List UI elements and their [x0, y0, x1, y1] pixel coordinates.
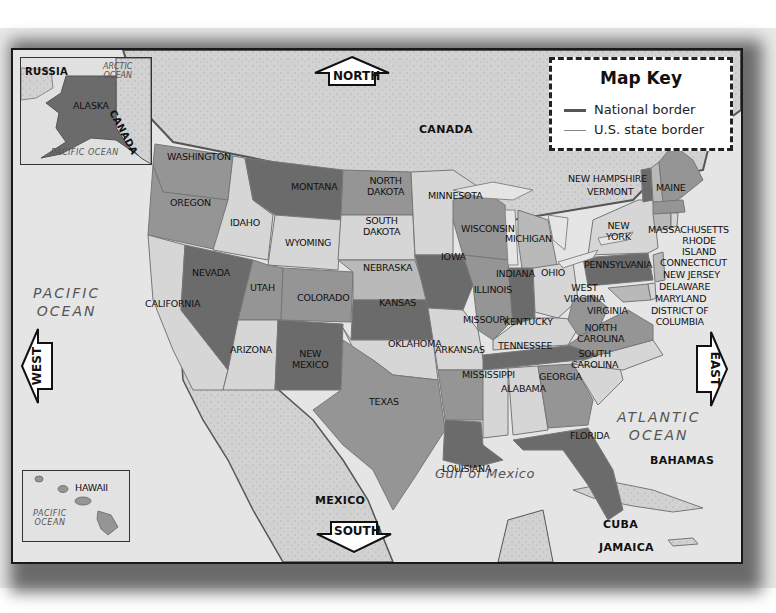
california-label: CALIFORNIA — [145, 298, 200, 309]
south-carolina-label: SOUTH CAROLINA — [571, 348, 618, 370]
maryland-label: MARYLAND — [655, 293, 706, 304]
north-label: NORTH — [333, 69, 380, 83]
missouri-label: MISSOURI — [463, 314, 508, 325]
wyoming-label: WYOMING — [285, 237, 331, 248]
massachusetts-state — [653, 200, 685, 214]
florida-label: FLORIDA — [570, 430, 610, 441]
north-dakota-label: NORTH DAKOTA — [367, 175, 404, 197]
iowa-label: IOWA — [441, 251, 466, 262]
west-arrow: WEST — [20, 327, 54, 405]
nevada-label: NEVADA — [192, 267, 230, 278]
montana-label: MONTANA — [291, 181, 338, 192]
atlantic-ocean-label: ATLANTIC OCEAN — [617, 408, 700, 444]
russia-label: RUSSIA — [25, 66, 68, 77]
washington-label: WASHINGTON — [167, 151, 231, 162]
national-border-swatch — [564, 109, 586, 112]
west-virginia-label: WEST VIRGINIA — [564, 282, 605, 304]
maine-label: MAINE — [656, 182, 686, 193]
kentucky-label: KENTUCKY — [504, 316, 553, 327]
arctic-ocean-label: ARCTIC OCEAN — [103, 62, 132, 80]
south-label: SOUTH — [334, 524, 381, 538]
oregon-label: OREGON — [170, 197, 211, 208]
tennessee-label: TENNESSEE — [498, 340, 552, 351]
delaware-label: DELAWARE — [659, 281, 710, 292]
connecticut-label: CONNECTICUT — [660, 257, 727, 268]
map-key: Map Key National border U.S. state borde… — [549, 57, 733, 151]
michigan-label: MICHIGAN — [505, 233, 552, 244]
indiana-label: INDIANA — [496, 268, 535, 279]
north-carolina-label: NORTH CAROLINA — [577, 322, 624, 344]
vermont-label: VERMONT — [587, 186, 633, 197]
west-label: WEST — [30, 347, 44, 385]
minnesota-label: MINNESOTA — [428, 190, 483, 201]
north-arrow: NORTH — [313, 55, 391, 87]
key-national-border: National border — [564, 102, 695, 117]
illinois-label: ILLINOIS — [474, 284, 512, 295]
state-border-label: U.S. state border — [594, 122, 704, 137]
east-label: EAST — [708, 352, 722, 386]
rhode-island-label: RHODE ISLAND — [682, 235, 716, 257]
new-mexico-label: NEW MEXICO — [292, 348, 328, 370]
national-border-label: National border — [594, 102, 695, 117]
kauai-island — [35, 476, 43, 482]
alabama-label: ALABAMA — [501, 383, 546, 394]
cuba-label: CUBA — [603, 519, 638, 530]
pacific-ocean-label: PACIFIC OCEAN — [33, 284, 100, 320]
mississippi-label: MISSISSIPPI — [462, 369, 515, 380]
south-dakota-label: SOUTH DAKOTA — [363, 215, 400, 237]
new-jersey-label: NEW JERSEY — [663, 269, 720, 280]
map-key-title: Map Key — [552, 68, 730, 88]
oklahoma-label: OKLAHOMA — [388, 338, 441, 349]
canada-label: CANADA — [419, 124, 473, 135]
dc-label: DISTRICT OF COLUMBIA — [651, 305, 709, 327]
alaska-label: ALASKA — [73, 100, 109, 111]
texas-label: TEXAS — [369, 396, 399, 407]
mexico-label: MEXICO — [315, 495, 365, 506]
big-island — [97, 511, 118, 535]
arizona-label: ARIZONA — [230, 344, 272, 355]
pennsylvania-label: PENNSYLVANIA — [584, 259, 652, 270]
oahu-island — [58, 486, 68, 493]
nebraska-label: NEBRASKA — [363, 262, 412, 273]
bahamas-label: BAHAMAS — [650, 455, 714, 466]
south-arrow: SOUTH — [315, 520, 393, 554]
massachusetts-label: MASSACHUSETTS — [648, 224, 729, 235]
new-york-label: NEW YORK — [606, 220, 631, 242]
colorado-label: COLORADO — [297, 292, 349, 303]
key-state-border: U.S. state border — [564, 122, 704, 137]
alaska-inset: RUSSIA ARCTIC OCEAN ALASKA CANADA PACIFI… — [20, 57, 152, 165]
georgia-label: GEORGIA — [539, 371, 582, 382]
maui-island — [75, 497, 91, 505]
ohio-label: OHIO — [541, 267, 565, 278]
east-arrow: EAST — [695, 330, 729, 408]
pacific-ocean-inset-label: PACIFIC OCEAN — [51, 148, 119, 158]
virginia-label: VIRGINIA — [587, 305, 628, 316]
utah-label: UTAH — [250, 282, 275, 293]
state-border-swatch — [564, 130, 586, 131]
arkansas-label: ARKANSAS — [435, 344, 485, 355]
pacific-ocean-hawaii-label: PACIFIC OCEAN — [33, 509, 67, 527]
hawaii-label: HAWAII — [75, 482, 108, 493]
idaho-label: IDAHO — [230, 217, 260, 228]
new-hampshire-label: NEW HAMPSHIRE — [568, 173, 647, 184]
jamaica-label: JAMAICA — [599, 542, 654, 553]
jamaica-land — [668, 538, 698, 546]
kansas-label: KANSAS — [379, 297, 416, 308]
hawaii-inset: HAWAII PACIFIC OCEAN — [22, 470, 130, 542]
louisiana-label: LOUISIANA — [442, 463, 491, 474]
us-map: RUSSIA ARCTIC OCEAN ALASKA CANADA PACIFI… — [11, 48, 743, 564]
